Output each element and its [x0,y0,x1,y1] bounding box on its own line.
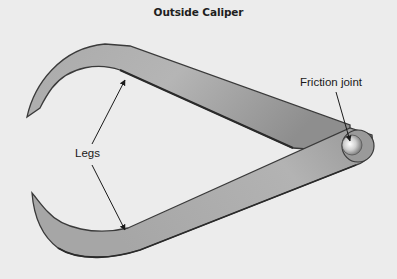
legs-label: Legs [75,147,100,159]
friction-joint [342,130,374,162]
caliper-diagram: Outside Caliper Friction joint Legs [0,0,397,279]
legs-arrow-lower [92,165,125,230]
legs-arrow-upper [92,80,125,144]
upper-leg [27,44,350,152]
caliper-illustration [0,0,397,279]
friction-joint-label: Friction joint [300,76,362,88]
diagram-title: Outside Caliper [0,6,397,18]
